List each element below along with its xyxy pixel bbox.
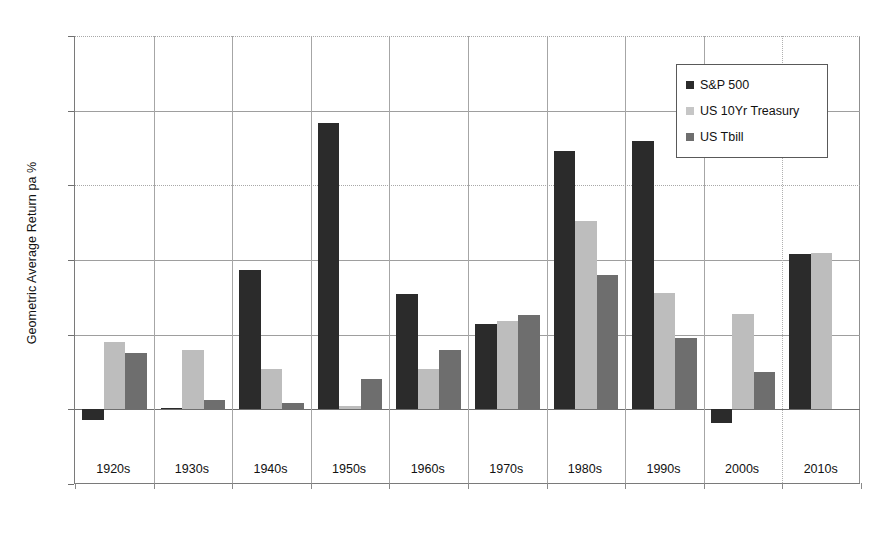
category-separator [389,36,390,483]
bar [711,409,732,422]
bar-chart: Geometric Average Return pa % -505101520… [0,0,873,538]
category-separator [625,36,626,483]
x-tick-label: 1950s [304,462,394,476]
bar [161,408,182,409]
bar [82,409,103,419]
x-tick-mark [782,483,783,489]
x-tick-mark [625,483,626,489]
bar [261,369,282,409]
bar [475,324,496,409]
x-tick-mark [75,483,76,489]
x-tick-label: 2000s [697,462,787,476]
y-tick-mark [68,111,74,112]
bar [575,221,596,409]
category-separator [547,36,548,483]
y-tick-mark [68,484,74,485]
bar [396,294,417,409]
bar [754,372,775,409]
bar [204,400,225,409]
legend-item-us-10yr-treasury: US 10Yr Treasury [686,98,819,124]
y-tick-mark [68,260,74,261]
y-tick-mark [68,36,74,37]
x-tick-mark [704,483,705,489]
bar [554,151,575,409]
bar [632,141,653,410]
bar [361,379,382,409]
bar [104,342,125,409]
bar [339,406,360,409]
bar [318,123,339,410]
x-tick-mark [232,483,233,489]
category-separator [232,36,233,483]
x-tick-label: 1970s [461,462,551,476]
legend-label: US 10Yr Treasury [700,104,799,118]
x-tick-mark [389,483,390,489]
category-separator [468,36,469,483]
x-tick-label: 1980s [540,462,630,476]
bar [518,315,539,409]
x-tick-mark [861,483,862,489]
x-tick-mark [154,483,155,489]
legend-swatch-icon [686,107,694,115]
y-tick-mark [68,335,74,336]
bar [125,353,146,410]
legend-label: US Tbill [700,130,744,144]
bar [439,350,460,410]
x-tick-mark [311,483,312,489]
x-tick-mark [547,483,548,489]
y-tick-mark [68,409,74,410]
x-tick-label: 1920s [68,462,158,476]
bar [239,270,260,409]
bar [418,369,439,409]
bar [732,314,753,410]
x-tick-mark [468,483,469,489]
y-axis-title: Geometric Average Return pa % [25,103,39,403]
y-tick-mark [68,185,74,186]
legend-swatch-icon [686,81,694,89]
bar [182,350,203,410]
bar [597,275,618,409]
x-tick-label: 1940s [226,462,316,476]
bar [675,338,696,410]
legend-swatch-icon [686,133,694,141]
legend-label: S&P 500 [700,78,749,92]
x-tick-label: 1930s [147,462,237,476]
category-separator [154,36,155,483]
bar [654,293,675,409]
category-separator [311,36,312,483]
legend-item-sp500: S&P 500 [686,72,819,98]
bar [811,253,832,410]
legend: S&P 500 US 10Yr Treasury US Tbill [676,64,828,158]
legend-item-us-tbill: US Tbill [686,124,819,150]
bar [497,321,518,409]
x-tick-label: 1960s [383,462,473,476]
x-tick-label: 2010s [776,462,866,476]
bar [282,403,303,409]
x-tick-label: 1990s [619,462,709,476]
bar [789,254,810,409]
